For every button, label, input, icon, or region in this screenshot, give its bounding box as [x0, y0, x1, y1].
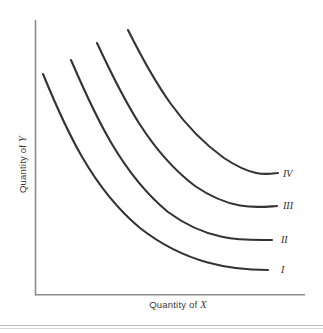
x-axis-label: Quantity of X: [0, 299, 323, 310]
indifference-curve-ii: [71, 60, 272, 240]
curve-label-ii: II: [281, 234, 288, 245]
y-axis-label-variable: Y: [17, 136, 28, 142]
curve-label-i: I: [281, 264, 284, 275]
indifference-curve-i: [43, 74, 268, 270]
x-axis-label-variable: X: [200, 299, 207, 310]
axes-group: [35, 20, 305, 296]
y-axis-label-text: Quantity of: [17, 142, 28, 193]
curve-label-iv: IV: [283, 168, 292, 179]
bottom-divider-secondary: [0, 328, 323, 329]
y-axis-label: Quantity of Y: [17, 105, 28, 225]
x-axis-label-text: Quantity of: [149, 299, 200, 310]
bottom-divider: [0, 325, 323, 326]
curve-label-iii: III: [283, 200, 293, 211]
indifference-curve-figure: [0, 0, 323, 333]
indifference-curve-iv: [128, 30, 278, 174]
curves-group: [43, 30, 278, 270]
